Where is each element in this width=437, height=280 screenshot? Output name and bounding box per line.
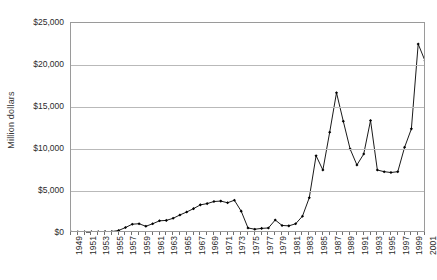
x-tick-label: 1997 xyxy=(401,236,411,255)
data-point-marker xyxy=(131,223,134,226)
plot-area xyxy=(70,22,425,232)
x-tick-mark xyxy=(329,232,330,235)
x-tick-mark xyxy=(308,232,309,235)
data-point-marker xyxy=(138,222,141,225)
x-tick-mark xyxy=(213,232,214,235)
y-tick-label: $10,000 xyxy=(33,143,64,153)
data-point-marker xyxy=(335,91,338,94)
x-tick-mark xyxy=(111,232,112,235)
x-tick-mark xyxy=(274,232,275,235)
data-point-marker xyxy=(219,200,222,203)
data-point-marker xyxy=(158,219,161,222)
data-point-marker xyxy=(369,119,372,122)
x-tick-mark xyxy=(342,232,343,235)
x-tick-mark xyxy=(179,232,180,235)
data-point-marker xyxy=(328,131,331,134)
x-tick-mark xyxy=(349,232,350,235)
data-point-marker xyxy=(396,170,399,173)
x-tick-mark xyxy=(233,232,234,235)
x-tick-mark xyxy=(315,232,316,235)
x-tick-label: 1979 xyxy=(278,236,288,255)
x-tick-label: 1961 xyxy=(156,236,166,255)
y-axis-tick-labels: $0$5,000$10,000$15,000$20,000$25,000 xyxy=(22,0,68,280)
x-tick-label: 1975 xyxy=(251,236,261,255)
data-series xyxy=(71,23,425,232)
x-tick-mark xyxy=(70,232,71,235)
x-tick-mark xyxy=(206,232,207,235)
x-tick-mark xyxy=(281,232,282,235)
x-tick-mark xyxy=(77,232,78,235)
x-tick-mark xyxy=(376,232,377,235)
data-point-marker xyxy=(342,120,345,123)
x-tick-label: 1973 xyxy=(237,236,247,255)
y-tick-label: $5,000 xyxy=(38,185,64,195)
x-tick-label: 1993 xyxy=(374,236,384,255)
x-tick-mark xyxy=(267,232,268,235)
line-chart: Million dollars $0$5,000$10,000$15,000$2… xyxy=(0,0,437,280)
x-tick-mark xyxy=(97,232,98,235)
data-point-marker xyxy=(226,201,229,204)
data-point-marker xyxy=(206,202,209,205)
x-tick-label: 1999 xyxy=(414,236,424,255)
x-tick-mark xyxy=(301,232,302,235)
x-tick-label: 1955 xyxy=(115,236,125,255)
x-tick-mark xyxy=(417,232,418,235)
x-tick-mark xyxy=(356,232,357,235)
x-tick-mark xyxy=(383,232,384,235)
x-tick-mark xyxy=(410,232,411,235)
data-point-marker xyxy=(185,210,188,213)
x-tick-mark xyxy=(322,232,323,235)
x-tick-mark xyxy=(138,232,139,235)
data-point-marker xyxy=(212,200,215,203)
x-tick-label: 1969 xyxy=(210,236,220,255)
x-tick-mark xyxy=(261,232,262,235)
x-tick-label: 1951 xyxy=(88,236,98,255)
x-tick-mark xyxy=(104,232,105,235)
x-tick-mark xyxy=(145,232,146,235)
x-tick-mark xyxy=(220,232,221,235)
x-tick-label: 1967 xyxy=(197,236,207,255)
x-tick-mark xyxy=(186,232,187,235)
y-tick-label: $0 xyxy=(55,227,64,237)
data-point-marker xyxy=(144,225,147,228)
y-tick-label: $15,000 xyxy=(33,101,64,111)
x-tick-mark xyxy=(172,232,173,235)
data-point-marker xyxy=(376,168,379,171)
x-tick-mark xyxy=(363,232,364,235)
gridline xyxy=(71,149,424,150)
data-point-marker xyxy=(172,217,175,220)
y-axis-title-label: Million dollars xyxy=(6,91,16,149)
x-tick-mark xyxy=(370,232,371,235)
data-point-marker xyxy=(253,228,256,231)
x-tick-mark xyxy=(84,232,85,235)
x-tick-label: 1971 xyxy=(224,236,234,255)
x-tick-mark xyxy=(247,232,248,235)
x-tick-label: 1965 xyxy=(183,236,193,255)
x-tick-label: 1995 xyxy=(387,236,397,255)
data-point-marker xyxy=(178,213,181,216)
x-tick-label: 1949 xyxy=(74,236,84,255)
data-point-marker xyxy=(321,168,324,171)
x-tick-mark xyxy=(390,232,391,235)
data-point-marker xyxy=(287,224,290,227)
x-tick-label: 2001 xyxy=(428,236,437,255)
x-tick-mark xyxy=(118,232,119,235)
data-point-marker xyxy=(410,127,413,130)
data-point-marker xyxy=(308,196,311,199)
x-tick-mark xyxy=(90,232,91,235)
x-tick-label: 1985 xyxy=(319,236,329,255)
x-tick-mark xyxy=(288,232,289,235)
data-point-marker xyxy=(389,171,392,174)
x-tick-mark xyxy=(295,232,296,235)
x-tick-label: 1959 xyxy=(142,236,152,255)
data-point-marker xyxy=(260,227,263,230)
x-tick-label: 1977 xyxy=(265,236,275,255)
x-tick-label: 1963 xyxy=(169,236,179,255)
x-tick-label: 1953 xyxy=(101,236,111,255)
x-tick-mark xyxy=(424,232,425,235)
x-tick-label: 1983 xyxy=(305,236,315,255)
x-tick-label: 1987 xyxy=(333,236,343,255)
x-tick-mark xyxy=(397,232,398,235)
gridline xyxy=(71,65,424,66)
x-tick-mark xyxy=(131,232,132,235)
